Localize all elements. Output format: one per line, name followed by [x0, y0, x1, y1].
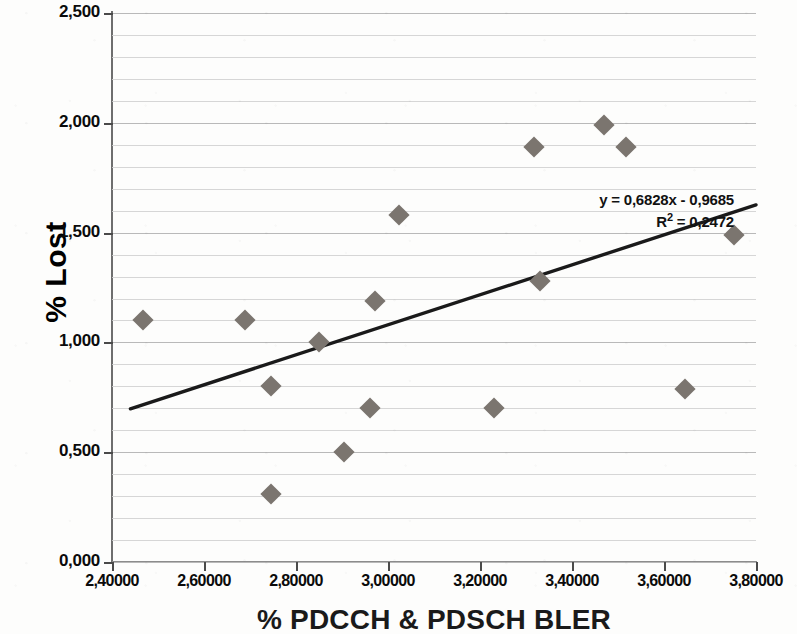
x-tick-mark [296, 562, 298, 571]
x-tick-label: 2,60000 [177, 572, 231, 590]
y-tick-label: 2,000 [14, 112, 100, 132]
y-tick-label: 1,000 [14, 331, 100, 351]
y-tick-mark [104, 233, 113, 235]
x-tick-mark [664, 562, 666, 571]
x-tick-mark [112, 562, 114, 571]
x-tick-label: 3,20000 [453, 572, 507, 590]
y-tick-mark [104, 342, 113, 344]
gridline-major [112, 562, 756, 563]
x-axis-tick-labels: 2,400002,600002,800003,000003,200003,400… [0, 572, 797, 600]
x-tick-label: 3,40000 [545, 572, 599, 590]
x-tick-label: 2,40000 [85, 572, 139, 590]
trendline-equation-annotation: y = 0,6828x - 0,9685 R2 = 0,2472 [506, 190, 734, 232]
x-tick-mark [204, 562, 206, 571]
x-tick-mark [388, 562, 390, 571]
equation-line: y = 0,6828x - 0,9685 [506, 190, 734, 210]
r-squared-line: R2 = 0,2472 [506, 210, 734, 232]
r-value: = 0,2472 [673, 213, 734, 230]
x-tick-label: 3,00000 [361, 572, 415, 590]
chart-canvas: % Lost 0,0000,5001,0001,5002,0002,500 2,… [0, 0, 797, 634]
r-symbol: R [656, 213, 667, 230]
x-tick-label: 3,80000 [729, 572, 783, 590]
y-tick-label: 2,500 [14, 2, 100, 22]
y-tick-label: 0,500 [14, 441, 100, 461]
y-tick-label: 0,000 [14, 551, 100, 571]
x-tick-label: 3,60000 [637, 572, 691, 590]
y-axis-tick-labels: 0,0000,5001,0001,5002,0002,500 [0, 0, 100, 634]
x-tick-mark [572, 562, 574, 571]
trendline [112, 13, 756, 562]
x-tick-label: 2,80000 [269, 572, 323, 590]
y-tick-label: 1,500 [14, 222, 100, 242]
x-tick-mark [480, 562, 482, 571]
x-tick-mark [756, 562, 758, 571]
y-tick-mark [104, 452, 113, 454]
plot-area [112, 13, 756, 562]
y-tick-mark [104, 13, 113, 15]
y-tick-mark [104, 123, 113, 125]
x-axis-title: % PDCCH & PDSCH BLER [112, 604, 756, 634]
